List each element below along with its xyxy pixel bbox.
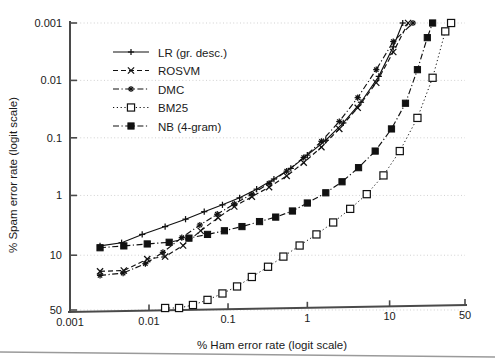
data-point-open-square	[429, 74, 436, 81]
data-point-open-square	[347, 205, 354, 212]
data-point-open-square	[313, 231, 320, 238]
data-point-filled-square	[304, 200, 310, 206]
y-tick-label: 0.001	[34, 17, 62, 29]
data-point-filled-square	[355, 165, 361, 171]
data-point-open-square	[219, 290, 226, 297]
data-point-filled-square	[221, 228, 227, 234]
data-point-open-square	[330, 219, 337, 226]
x-tick-label: 10	[383, 310, 395, 322]
data-point-open-square	[189, 301, 196, 308]
data-point-open-square	[233, 283, 240, 290]
data-point-open-square	[204, 296, 211, 303]
data-point-filled-square	[273, 214, 279, 220]
data-point-filled-square	[414, 67, 420, 73]
data-point-filled-square	[144, 241, 150, 247]
y-tick-label: 0.01	[41, 74, 62, 86]
data-point-open-square	[280, 253, 287, 260]
data-point-open-square	[414, 114, 421, 121]
data-point-filled-square	[204, 231, 210, 237]
chart-figure: 0.0010.010.111050 0.0010.010.111050 LR (…	[0, 0, 495, 362]
y-tick-label: 10	[50, 249, 62, 261]
data-point-open-square	[248, 273, 255, 280]
data-point-open-square	[448, 19, 455, 26]
data-point-open-square	[442, 28, 449, 35]
data-point-open-square	[396, 148, 403, 155]
x-tick-label: 50	[459, 309, 471, 321]
y-tick-label: 50	[50, 304, 62, 316]
data-point-filled-square	[323, 190, 329, 196]
data-point-open-square	[264, 263, 271, 270]
data-point-open-square	[127, 104, 134, 111]
data-point-filled-square	[372, 148, 378, 154]
data-point-filled-square	[256, 218, 262, 224]
data-point-filled-square	[97, 245, 103, 251]
legend-label: DMC	[158, 84, 184, 96]
data-point-open-square	[380, 172, 387, 179]
data-point-filled-square	[128, 123, 134, 129]
data-point-filled-square	[388, 126, 394, 132]
data-point-filled-square	[402, 100, 408, 106]
x-axis-label: % Ham error rate (logit scale)	[197, 339, 347, 351]
data-point-filled-square	[166, 239, 172, 245]
x-tick-label: 0.1	[220, 313, 235, 325]
chart-background	[0, 0, 495, 362]
data-point-open-square	[296, 242, 303, 249]
legend-label: LR (gr. desc.)	[158, 47, 227, 59]
x-tick-label: 0.01	[138, 315, 159, 327]
data-point-open-square	[175, 304, 182, 311]
x-tick-label: 1	[304, 312, 310, 324]
legend-label: ROSVM	[158, 65, 200, 77]
data-point-open-square	[162, 304, 169, 311]
roc-logit-chart: 0.0010.010.111050 0.0010.010.111050 LR (…	[0, 0, 495, 362]
data-point-filled-square	[339, 179, 345, 185]
data-point-filled-square	[121, 243, 127, 249]
data-point-open-square	[363, 191, 370, 198]
legend-label: BM25	[158, 102, 188, 114]
legend-label: NB (4-gram)	[158, 121, 221, 133]
data-point-filled-square	[239, 223, 245, 229]
y-tick-label: 0.1	[47, 132, 62, 144]
data-point-filled-square	[424, 35, 430, 41]
x-tick-label: 0.001	[56, 316, 84, 328]
data-point-filled-square	[186, 235, 192, 241]
y-axis-label: % Spam error rate (logit scale)	[7, 97, 19, 253]
data-point-filled-square	[289, 208, 295, 214]
y-tick-label: 1	[56, 189, 62, 201]
data-point-filled-square	[429, 20, 435, 26]
